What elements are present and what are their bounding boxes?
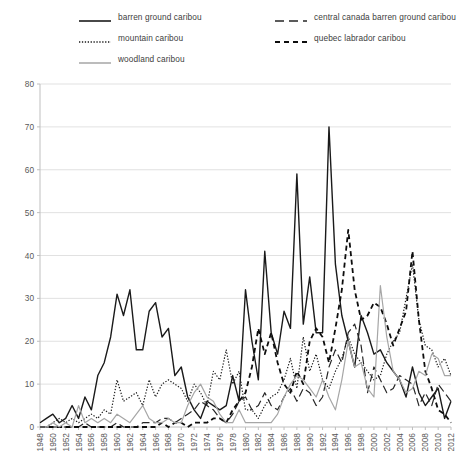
y-tick-label: 80 (25, 79, 35, 89)
x-tick-label: 1954 (74, 433, 84, 452)
chart-canvas: 0102030405060708019481950195219541956195… (0, 0, 466, 462)
x-tick-label: 1988 (292, 433, 302, 452)
x-tick-label: 2012 (446, 433, 456, 452)
x-tick-label: 1978 (228, 433, 238, 452)
x-tick-label: 1966 (151, 433, 161, 452)
x-tick-label: 1948 (35, 433, 45, 452)
x-tick-label: 1950 (48, 433, 58, 452)
x-tick-label: 1958 (99, 433, 109, 452)
x-tick-label: 1972 (189, 433, 199, 452)
series-line-central-canada-barren-ground-caribou (40, 324, 451, 427)
y-tick-label: 60 (25, 165, 35, 175)
series-line-barren-ground-caribou (40, 127, 451, 423)
x-tick-label: 1960 (112, 433, 122, 452)
x-tick-label: 1974 (202, 433, 212, 452)
x-tick-label: 2006 (407, 433, 417, 452)
x-tick-label: 1952 (61, 433, 71, 452)
x-tick-label: 1970 (176, 433, 186, 452)
x-tick-label: 1984 (266, 433, 276, 452)
x-tick-label: 1968 (163, 433, 173, 452)
y-tick-label: 30 (25, 293, 35, 303)
x-tick-label: 2004 (395, 433, 405, 452)
x-tick-label: 1990 (305, 433, 315, 452)
y-tick-label: 50 (25, 208, 35, 218)
x-tick-label: 1998 (356, 433, 366, 452)
x-tick-label: 1956 (86, 433, 96, 452)
y-tick-label: 40 (25, 251, 35, 261)
x-tick-label: 2000 (369, 433, 379, 452)
y-tick-label: 10 (25, 379, 35, 389)
x-tick-label: 1992 (318, 433, 328, 452)
y-tick-label: 20 (25, 336, 35, 346)
x-tick-label: 2010 (433, 433, 443, 452)
y-tick-label: 70 (25, 122, 35, 132)
series-line-mountain-caribou (40, 264, 451, 427)
x-tick-label: 1994 (330, 433, 340, 452)
chart-figure: barren ground caribou mountain caribou w… (0, 0, 466, 462)
x-tick-label: 1976 (215, 433, 225, 452)
x-tick-label: 1996 (343, 433, 353, 452)
series-line-woodland-caribou (40, 286, 451, 427)
plot-area: 0102030405060708019481950195219541956195… (0, 0, 466, 462)
x-tick-label: 1962 (125, 433, 135, 452)
x-tick-label: 1982 (253, 433, 263, 452)
x-tick-label: 1980 (241, 433, 251, 452)
x-tick-label: 2002 (382, 433, 392, 452)
y-tick-label: 0 (29, 422, 34, 432)
x-tick-label: 1986 (279, 433, 289, 452)
x-tick-label: 1964 (138, 433, 148, 452)
x-tick-label: 2008 (420, 433, 430, 452)
